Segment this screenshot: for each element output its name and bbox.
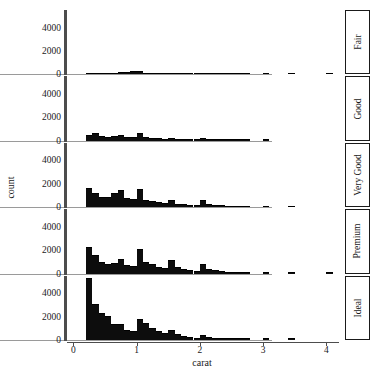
facet-strip-label: Very Good — [353, 154, 363, 195]
y-axis-tick — [64, 274, 67, 275]
facet-strip-fair: Fair — [345, 10, 370, 74]
chart-root: count 01234 carat FairGoodVery GoodPremi… — [0, 0, 381, 374]
panel-plot-area — [67, 143, 339, 207]
histogram-bar — [288, 272, 294, 274]
facet-panel-good — [67, 76, 339, 140]
x-axis-tick-label: 2 — [197, 345, 202, 355]
y-axis-tick — [64, 94, 67, 95]
y-axis-title: count — [2, 0, 18, 374]
panel-plot-area — [67, 76, 339, 140]
x-axis-tick-label: 1 — [134, 345, 139, 355]
facet-strip-label: Ideal — [353, 298, 363, 317]
y-axis-tick-label: 2000 — [22, 179, 61, 189]
y-axis-tick-label: 4000 — [22, 288, 61, 298]
y-axis-tick — [64, 117, 67, 118]
facet-strip-premium: Premium — [345, 209, 370, 273]
facet-panel-ideal — [67, 276, 339, 340]
y-axis-tick-label: 4000 — [22, 155, 61, 165]
panel-plot-area — [67, 209, 339, 273]
y-axis-spine — [64, 10, 67, 74]
facet-strip-very-good: Very Good — [345, 143, 370, 207]
y-axis-spine — [64, 143, 67, 207]
facet-strip-good: Good — [345, 76, 370, 140]
y-axis-tick-label: 0 — [22, 136, 61, 146]
facet-strip-label: Fair — [353, 35, 363, 50]
histogram-bar — [288, 206, 294, 208]
x-axis-tick-label: 0 — [71, 345, 76, 355]
facet-panel-very-good — [67, 143, 339, 207]
y-axis-spine — [64, 276, 67, 340]
facet-strip-ideal: Ideal — [345, 276, 370, 340]
panel-plot-area — [67, 10, 339, 74]
y-axis-tick — [64, 317, 67, 318]
x-axis-tick-label: 3 — [261, 345, 266, 355]
x-axis-line — [67, 342, 339, 343]
facet-strip-label: Premium — [353, 224, 363, 259]
histogram-bar — [326, 73, 332, 75]
y-axis-tick — [64, 293, 67, 294]
histogram-bar — [288, 338, 294, 340]
y-axis-tick — [64, 184, 67, 185]
y-axis-tick-label: 0 — [22, 269, 61, 279]
y-axis-title-text: count — [5, 176, 16, 198]
panel-plot-area — [67, 276, 339, 340]
facet-strip-label: Good — [353, 98, 363, 119]
y-axis-tick-label: 4000 — [22, 23, 61, 33]
y-axis-tick — [64, 160, 67, 161]
y-axis-tick-label: 0 — [22, 335, 61, 345]
y-axis-tick — [64, 28, 67, 29]
y-axis-tick-label: 4000 — [22, 222, 61, 232]
y-axis-tick — [64, 227, 67, 228]
histogram-bar — [288, 73, 294, 75]
y-axis-tick — [64, 74, 67, 75]
y-axis-tick — [64, 141, 67, 142]
facet-panel-premium — [67, 209, 339, 273]
x-axis-tick-label: 4 — [324, 345, 329, 355]
x-axis-title: carat — [67, 357, 337, 368]
y-axis-tick-label: 4000 — [22, 89, 61, 99]
y-axis-tick-label: 0 — [22, 69, 61, 79]
y-axis-tick — [64, 207, 67, 208]
y-axis-tick-label: 2000 — [22, 112, 61, 122]
y-axis-spine — [64, 76, 67, 140]
y-axis-tick-label: 2000 — [22, 46, 61, 56]
histogram-bar — [326, 272, 332, 274]
y-axis-tick — [64, 340, 67, 341]
y-axis-tick — [64, 250, 67, 251]
y-axis-spine — [64, 209, 67, 273]
y-axis-tick-label: 2000 — [22, 312, 61, 322]
facet-panel-fair — [67, 10, 339, 74]
y-axis-tick — [64, 51, 67, 52]
y-axis-tick-label: 2000 — [22, 245, 61, 255]
y-axis-tick-label: 0 — [22, 202, 61, 212]
